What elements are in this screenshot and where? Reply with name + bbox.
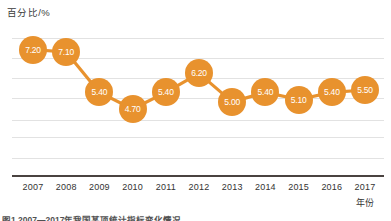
data-point-2010: 4.70 — [119, 95, 147, 123]
data-point-2008: 7.10 — [52, 38, 80, 66]
figure-caption: 图1 2007—2017年我国某项统计指标变化情况 — [2, 213, 262, 221]
data-point-2013: 5.00 — [218, 88, 246, 116]
data-point-2017: 5.50 — [351, 76, 379, 104]
data-point-2011: 5.40 — [152, 78, 180, 106]
data-point-2015: 5.10 — [285, 86, 313, 114]
x-axis-label-2017: 2017 — [345, 182, 385, 192]
data-point-2016: 5.40 — [318, 78, 346, 106]
x-axis-title: 年份 — [345, 196, 385, 209]
data-point-2007: 7.20 — [19, 36, 47, 64]
chart-container: 百分比/% 7.207.105.404.705.406.205.005.405.… — [0, 0, 391, 221]
